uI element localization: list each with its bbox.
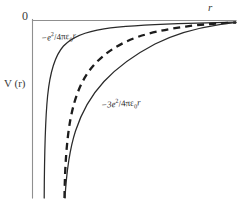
x-axis-label: r xyxy=(208,2,212,13)
annotation-2-numerator: −3e xyxy=(101,99,116,110)
annotation-2-trailing: r xyxy=(137,97,141,107)
curve-minus-3e-squared xyxy=(65,23,236,198)
figure-container: 0 r V (r) −e2/4πε0r −3e2/4πε0r xyxy=(0,0,238,199)
annotation-curve-1: −e2/4πε0r xyxy=(41,32,77,43)
annotation-2-denominator: 4πε xyxy=(121,98,134,109)
y-axis-label: V (r) xyxy=(4,78,25,89)
annotation-1-denominator: 4πε xyxy=(56,31,69,42)
annotation-1-trailing: r xyxy=(72,31,76,41)
origin-label: 0 xyxy=(22,10,28,22)
annotation-curve-2: −3e2/4πε0r xyxy=(101,98,141,110)
curve-intermediate-dashed xyxy=(65,23,237,199)
